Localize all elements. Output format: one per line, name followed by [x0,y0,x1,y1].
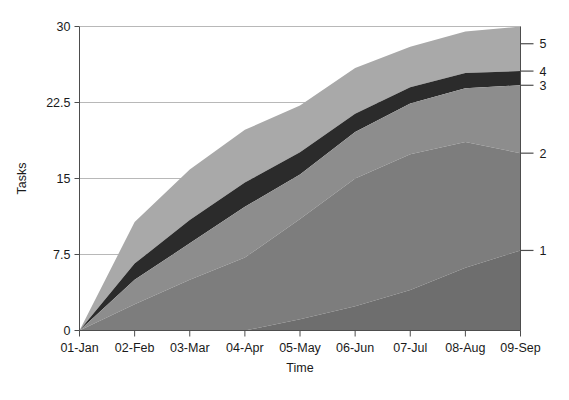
x-tick-label: 08-Aug [445,341,485,355]
x-tick-label: 05-May [279,341,321,355]
x-tick-label: 01-Jan [60,341,98,355]
y-axis: 07.51522.530 [46,20,79,338]
y-tick-label: 30 [57,20,71,34]
x-axis: 01-Jan02-Feb03-Mar04-Apr05-May06-Jun07-J… [60,331,540,355]
y-tick-label: 22.5 [46,96,70,110]
y-tick-label: 7.5 [53,248,70,262]
y-axis-title: Tasks [15,163,29,195]
secondary-axis: 12345 [521,37,547,258]
y-tick-label: 15 [57,172,71,186]
x-axis-title: Time [286,361,313,375]
chart-canvas: 07.51522.530Tasks01-Jan02-Feb03-Mar04-Ap… [0,0,569,400]
y-tick-label: 0 [64,324,71,338]
x-tick-label: 06-Jun [336,341,374,355]
x-tick-label: 07-Jul [393,341,427,355]
series-label-4: 4 [540,65,547,79]
x-tick-label: 02-Feb [115,341,155,355]
x-tick-label: 04-Apr [226,341,264,355]
series-label-1: 1 [540,244,547,258]
area-chart: 07.51522.530Tasks01-Jan02-Feb03-Mar04-Ap… [0,0,569,400]
series-label-3: 3 [540,79,547,93]
x-tick-label: 09-Sep [500,341,540,355]
series-label-5: 5 [540,37,547,51]
x-tick-label: 03-Mar [170,341,210,355]
series-label-2: 2 [540,147,547,161]
